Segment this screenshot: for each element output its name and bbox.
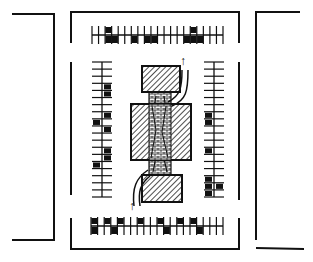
parked-car bbox=[104, 127, 111, 132]
parked-car bbox=[104, 113, 111, 118]
parked-car bbox=[177, 218, 183, 224]
site-plan-diagram: Parking lot site plan sketch bbox=[0, 0, 313, 262]
parked-car bbox=[191, 36, 197, 43]
stall-row-top bbox=[92, 26, 223, 44]
entry-arrow-icon: ↑ bbox=[129, 200, 135, 212]
parked-car bbox=[205, 120, 212, 125]
central-building bbox=[131, 66, 191, 202]
top-block bbox=[142, 66, 180, 92]
parked-car bbox=[91, 227, 97, 234]
parked-car bbox=[205, 184, 212, 189]
left-lot-edge bbox=[12, 14, 54, 240]
parked-car bbox=[205, 148, 212, 153]
parked-car bbox=[104, 84, 111, 89]
parked-car bbox=[190, 218, 196, 224]
parked-car bbox=[138, 218, 144, 224]
site-plan-canvas bbox=[0, 0, 313, 262]
stall-row-left bbox=[92, 62, 112, 197]
parked-car bbox=[184, 36, 190, 43]
parked-car bbox=[104, 91, 111, 96]
exit-arrow-icon: ↑ bbox=[180, 55, 186, 67]
stall-row-bottom bbox=[91, 217, 223, 235]
parked-car bbox=[157, 218, 163, 224]
parked-car bbox=[104, 148, 111, 153]
bottom-block bbox=[142, 175, 182, 202]
parked-car bbox=[111, 227, 117, 234]
parked-car bbox=[151, 36, 157, 43]
parked-car bbox=[104, 155, 111, 160]
parked-car bbox=[197, 227, 203, 234]
parked-car bbox=[105, 36, 111, 43]
parked-car bbox=[164, 227, 170, 234]
parked-car bbox=[118, 218, 124, 224]
parked-car bbox=[205, 113, 212, 118]
parked-car bbox=[91, 218, 97, 224]
parked-car bbox=[145, 36, 151, 43]
parked-car bbox=[105, 218, 111, 224]
parked-car bbox=[105, 27, 111, 33]
parked-car bbox=[216, 184, 223, 189]
parked-car bbox=[197, 36, 203, 43]
parked-car bbox=[93, 120, 100, 125]
parked-car bbox=[112, 36, 118, 43]
right-lot-edge bbox=[256, 12, 304, 249]
parked-car bbox=[132, 36, 138, 43]
parked-car bbox=[93, 162, 100, 167]
parked-car bbox=[191, 27, 197, 33]
parked-car bbox=[205, 177, 212, 182]
parked-car bbox=[205, 191, 212, 196]
stall-row-right bbox=[204, 62, 224, 197]
